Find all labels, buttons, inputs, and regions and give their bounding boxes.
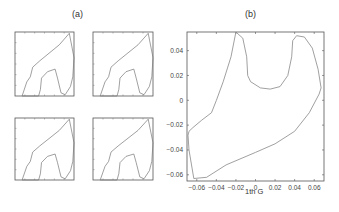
- subplot-box-3: [15, 118, 74, 180]
- curve-4: [100, 119, 153, 180]
- x-tick-label: 0.04: [288, 184, 301, 191]
- plot-b-frame: [187, 32, 324, 181]
- subplot-box-4: [93, 118, 153, 180]
- subplot-box-2: [93, 32, 153, 96]
- y-tick-label: −0.04: [167, 146, 184, 153]
- curve-3: [22, 119, 74, 180]
- x-tick-label: 0.06: [308, 184, 321, 191]
- figure: −0.06−0.04−0.0200.020.040.060.040.020−0.…: [0, 0, 339, 212]
- subplot-box-1: [15, 32, 74, 96]
- x-tick-label: 0: [254, 184, 258, 191]
- x-tick-label: −0.02: [228, 184, 245, 191]
- curve-1: [22, 33, 74, 96]
- x-tick-label: 0.02: [269, 184, 282, 191]
- x-tick-label: −0.04: [208, 184, 225, 191]
- y-tick-label: −0.02: [167, 121, 184, 128]
- x-tick-label: −0.06: [189, 184, 206, 191]
- y-tick-label: 0: [179, 97, 183, 104]
- y-tick-label: 0.02: [170, 72, 183, 79]
- curve-2: [100, 33, 153, 96]
- y-tick-label: 0.04: [170, 47, 183, 54]
- y-tick-label: −0.06: [167, 171, 184, 178]
- curve-b: [188, 32, 321, 179]
